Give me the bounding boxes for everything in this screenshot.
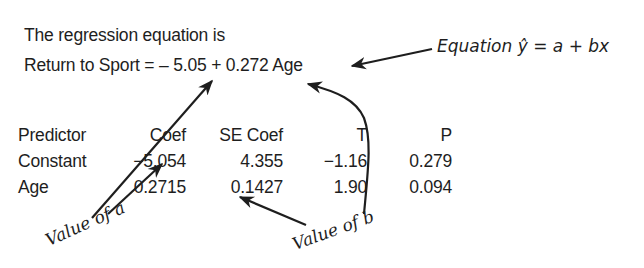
annotation-arrows xyxy=(0,0,644,268)
arrow-b-to-equation-icon xyxy=(308,84,369,214)
arrow-b-to-coef-icon xyxy=(240,197,306,225)
arrow-to-equation-icon xyxy=(352,49,432,66)
arrow-a-to-equation-icon xyxy=(92,81,212,218)
